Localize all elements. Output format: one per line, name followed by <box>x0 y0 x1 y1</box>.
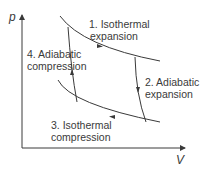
process-2-label: 2. Adiabatic expansion <box>145 76 199 100</box>
process-4-label: 4. Adiabatic compression <box>27 48 87 72</box>
x-axis-label: V <box>176 153 184 167</box>
y-axis-label: p <box>9 10 16 24</box>
process-1-label: 1. Isothermal expansion <box>89 18 150 42</box>
right-adiabat-arrow-icon <box>136 87 140 93</box>
process-3-label: 3. Isothermal compression <box>51 119 112 143</box>
